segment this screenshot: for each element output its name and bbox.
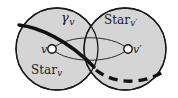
vertex-v-node <box>48 45 56 53</box>
star-vprime-label: Starv′ <box>104 14 137 28</box>
vertex-vprime-label: v′ <box>133 44 142 55</box>
gamma-v-subscript: v <box>69 16 75 27</box>
figure-canvas: γv Starv′ Starv v v′ <box>0 0 178 98</box>
gamma-v-label: γv <box>61 11 74 26</box>
star-v-base: Star <box>31 63 57 77</box>
star-v-label: Starv <box>31 64 62 78</box>
star-vprime-subscript: v′ <box>130 18 137 28</box>
star-neighborhoods-diagram <box>0 0 178 98</box>
star-vprime-base: Star <box>104 13 130 27</box>
vertex-v-label: v <box>41 44 47 55</box>
gamma-v-base: γ <box>61 10 69 25</box>
vertex-vprime-node <box>124 45 132 53</box>
star-v-subscript: v <box>57 68 62 78</box>
